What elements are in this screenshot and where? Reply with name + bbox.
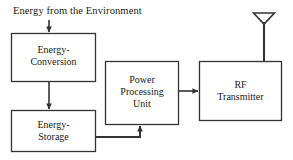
diagram-canvas — [0, 0, 293, 160]
block-rf-transmitter — [200, 62, 282, 121]
block-energy-conversion — [12, 34, 96, 82]
arrow-storage-to-ppu — [96, 126, 140, 137]
block-energy-storage — [12, 111, 96, 152]
block-diagram: Energy from the Environment Energy- Conv… — [0, 0, 293, 160]
block-power-processing-unit — [106, 62, 179, 125]
